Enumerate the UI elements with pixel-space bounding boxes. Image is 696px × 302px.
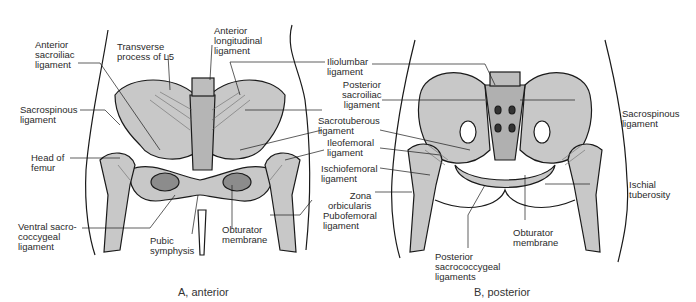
label-ileofemoral-ligament: Ileofemoral ligament bbox=[327, 138, 374, 158]
label-pubic-symphysis: Pubic symphysis bbox=[150, 236, 194, 256]
caption-posterior: B, posterior bbox=[474, 286, 530, 298]
label-ischial-tuberosity: Ischial tuberosity bbox=[629, 180, 670, 200]
posterior-pelvis-drawing bbox=[392, 40, 628, 262]
caption-anterior: A, anterior bbox=[178, 286, 229, 298]
label-posterior-sacroiliac-ligament: Posterior sacroiliac ligament bbox=[342, 80, 382, 110]
label-anterior-longitudinal-ligament: Anterior longitudinal ligament bbox=[214, 26, 262, 56]
label-transverse-process-l5: Transverse process of L5 bbox=[117, 42, 174, 62]
label-zona-orbicularis: Zona orbicularis bbox=[328, 191, 371, 211]
label-sacrotuberous-ligament: Sacrotuberous ligament bbox=[318, 116, 380, 136]
label-sacrospinous-ligament-anterior: Sacrospinous ligament bbox=[20, 105, 78, 125]
label-pubofemoral-ligament: Pubofemoral ligament bbox=[323, 211, 377, 231]
label-obturator-membrane-anterior: Obturator membrane bbox=[222, 225, 267, 245]
label-anterior-sacroiliac-ligament: Anterior sacroiliac ligament bbox=[35, 40, 75, 70]
label-ventral-sacrococcygeal-ligament: Ventral sacro- coccygeal ligament bbox=[18, 222, 77, 252]
label-head-of-femur: Head of femur bbox=[31, 153, 64, 173]
label-iliolumbar-ligament: Iliolumbar ligament bbox=[327, 57, 368, 77]
label-obturator-membrane-posterior: Obturator membrane bbox=[513, 228, 558, 248]
label-ischiofemoral-ligament: Ischiofemoral ligament bbox=[321, 164, 378, 184]
label-posterior-sacrococcygeal-ligaments: Posterior sacrococcygeal ligaments bbox=[435, 252, 500, 282]
label-sacrospinous-ligament-posterior: Sacrospinous ligament bbox=[622, 109, 680, 129]
